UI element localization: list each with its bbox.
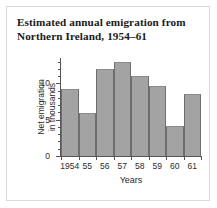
x-tick <box>114 156 115 160</box>
bar <box>184 94 202 156</box>
x-tick-label: 61 <box>178 161 208 171</box>
x-axis-title: Years <box>60 175 202 185</box>
y-tick-label: 5 <box>45 115 50 125</box>
x-tick <box>149 156 150 160</box>
x-tick <box>184 156 185 160</box>
plot-area: Net emigration in thousands 0510 1954555… <box>60 58 201 156</box>
chart-title-line-2: Northern Ireland, 1954–61 <box>17 30 147 42</box>
x-tick <box>61 156 62 160</box>
bar <box>149 86 167 156</box>
bar-series <box>61 58 201 156</box>
bar <box>61 89 79 157</box>
bar <box>166 126 184 156</box>
x-tick <box>131 156 132 160</box>
bar <box>114 62 132 156</box>
bar <box>96 69 114 156</box>
bar <box>131 76 149 156</box>
x-tick <box>166 156 167 160</box>
y-tick-label: 10 <box>41 78 50 88</box>
x-tick <box>79 156 80 160</box>
y-tick-label: 0 <box>45 151 50 161</box>
chart-title-line-1: Estimated annual emigration from <box>17 16 186 28</box>
chart-figure: Estimated annual emigration from Norther… <box>0 0 217 208</box>
x-tick <box>201 156 202 160</box>
x-tick-label-group: 195455565758596061 <box>61 161 201 173</box>
bar <box>79 113 97 156</box>
x-tick <box>96 156 97 160</box>
chart-title: Estimated annual emigration from Norther… <box>17 16 201 43</box>
